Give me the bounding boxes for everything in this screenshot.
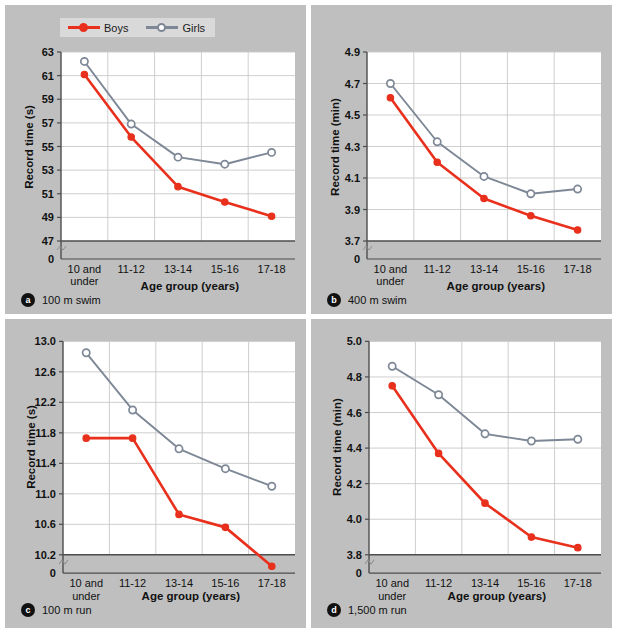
legend-label-boys: Boys	[104, 22, 128, 34]
panel-badge-icon: b	[327, 293, 341, 307]
x-tick-label: under	[378, 589, 406, 601]
y-axis-zero-label: 0	[48, 253, 54, 265]
x-tick-label: 11-12	[424, 263, 451, 275]
y-tick-label: 55	[42, 141, 54, 153]
y-axis-zero-label: 0	[354, 253, 360, 265]
x-tick-label: 13-14	[470, 263, 498, 275]
data-point-boys	[435, 450, 441, 457]
y-tick-label: 63	[42, 46, 54, 58]
legend-item-girls: Girls	[146, 22, 205, 34]
y-tick-label: 4.2	[347, 478, 362, 490]
data-point-boys	[481, 195, 487, 201]
data-point-girls	[174, 154, 181, 161]
y-tick-label: 10.2	[35, 549, 56, 561]
x-tick-label: 13-14	[165, 577, 193, 589]
data-point-boys	[268, 213, 274, 219]
y-tick-label: 5.0	[347, 335, 362, 347]
plot-area-d: 3.84.04.24.44.64.85.0010 andunder11-1213…	[311, 319, 612, 628]
data-point-girls	[83, 349, 90, 356]
y-tick-label: 4.3	[345, 141, 360, 153]
x-tick-label: 15-16	[517, 263, 545, 275]
panel-title: 100 m run	[42, 604, 92, 616]
panel-caption-d: d1,500 m run	[327, 603, 407, 617]
data-point-girls	[268, 483, 275, 490]
panel-badge-icon: a	[21, 293, 35, 307]
data-point-girls	[574, 436, 581, 443]
data-point-girls	[528, 437, 535, 444]
data-point-boys	[81, 71, 87, 77]
data-point-girls	[128, 120, 135, 127]
data-point-girls	[434, 138, 441, 145]
x-axis-title: Age group (years)	[447, 280, 545, 292]
plot-area-c: 10.210.611.011.411.812.212.613.0010 andu…	[5, 319, 306, 628]
panel-title: 100 m swim	[42, 294, 101, 306]
x-tick-label: 17-18	[258, 577, 286, 589]
y-axis-zero-label: 0	[356, 567, 362, 579]
chart-svg-a: 474951535557596163010 andunder11-1213-14…	[5, 5, 306, 314]
y-tick-label: 12.2	[35, 396, 56, 408]
y-tick-label: 49	[42, 211, 54, 223]
y-tick-label: 11.4	[35, 457, 57, 469]
y-tick-label: 57	[42, 117, 54, 129]
y-tick-label: 4.7	[345, 78, 360, 90]
x-tick-label: 15-16	[211, 577, 239, 589]
plot-area-b: 3.73.94.14.34.54.74.9010 andunder11-1213…	[311, 5, 612, 314]
data-point-girls	[481, 430, 488, 437]
chart-grid: Boys Girls 474951535557596163010 andunde…	[5, 5, 612, 628]
x-tick-label: 15-16	[211, 263, 239, 275]
data-point-girls	[81, 58, 88, 65]
y-axis-title: Record time (s)	[25, 405, 37, 489]
x-tick-label: 17-18	[564, 263, 592, 275]
x-axis-title: Age group (years)	[448, 590, 546, 602]
data-point-girls	[222, 465, 229, 472]
y-tick-label: 53	[42, 164, 54, 176]
y-tick-label: 51	[42, 188, 54, 200]
data-point-boys	[176, 511, 182, 518]
panel-badge-icon: d	[327, 603, 341, 617]
data-point-boys	[574, 227, 580, 233]
x-tick-label: 10 and	[374, 263, 408, 275]
data-point-boys	[528, 534, 534, 541]
data-point-girls	[129, 406, 136, 413]
x-tick-label: under	[70, 275, 98, 287]
x-tick-label: 11-12	[118, 263, 145, 275]
panel-caption-c: c100 m run	[21, 603, 92, 617]
x-tick-label: 10 and	[68, 263, 102, 275]
x-tick-label: 13-14	[471, 577, 499, 589]
y-tick-label: 3.8	[347, 549, 362, 561]
chart-svg-b: 3.73.94.14.34.54.74.9010 andunder11-1213…	[311, 5, 612, 314]
data-point-boys	[83, 435, 89, 442]
y-tick-label: 11.8	[35, 427, 56, 439]
y-tick-label: 12.6	[35, 366, 56, 378]
y-tick-label: 47	[42, 235, 54, 247]
data-point-boys	[129, 435, 135, 442]
x-tick-label: 11-12	[119, 577, 146, 589]
y-axis-title: Record time (min)	[331, 398, 343, 496]
panel-title: 1,500 m run	[348, 604, 407, 616]
figure-root: Boys Girls 474951535557596163010 andunde…	[0, 0, 617, 633]
data-point-boys	[575, 544, 581, 551]
x-tick-label: 10 and	[375, 577, 409, 589]
data-point-girls	[480, 173, 487, 180]
y-tick-label: 4.9	[345, 46, 360, 58]
x-tick-label: under	[72, 589, 100, 601]
y-axis-title: Record time (min)	[329, 98, 341, 196]
data-point-boys	[528, 213, 534, 219]
panel-c: 10.210.611.011.411.812.212.613.0010 andu…	[5, 319, 306, 628]
data-point-boys	[389, 383, 395, 390]
panel-b: 3.73.94.14.34.54.74.9010 andunder11-1213…	[311, 5, 612, 314]
legend-swatch-girls-icon	[146, 22, 178, 33]
y-tick-label: 4.1	[345, 172, 360, 184]
y-tick-label: 59	[42, 93, 54, 105]
data-point-boys	[222, 199, 228, 205]
panel-caption-b: b400 m swim	[327, 293, 407, 307]
y-tick-label: 4.6	[347, 406, 362, 418]
legend-item-boys: Boys	[68, 22, 128, 34]
y-tick-label: 61	[42, 70, 54, 82]
x-tick-label: 17-18	[258, 263, 286, 275]
x-tick-label: 17-18	[564, 577, 592, 589]
data-point-girls	[574, 185, 581, 192]
panel-caption-a: a100 m swim	[21, 293, 101, 307]
x-tick-label: 15-16	[517, 577, 545, 589]
y-tick-label: 4.0	[347, 513, 362, 525]
